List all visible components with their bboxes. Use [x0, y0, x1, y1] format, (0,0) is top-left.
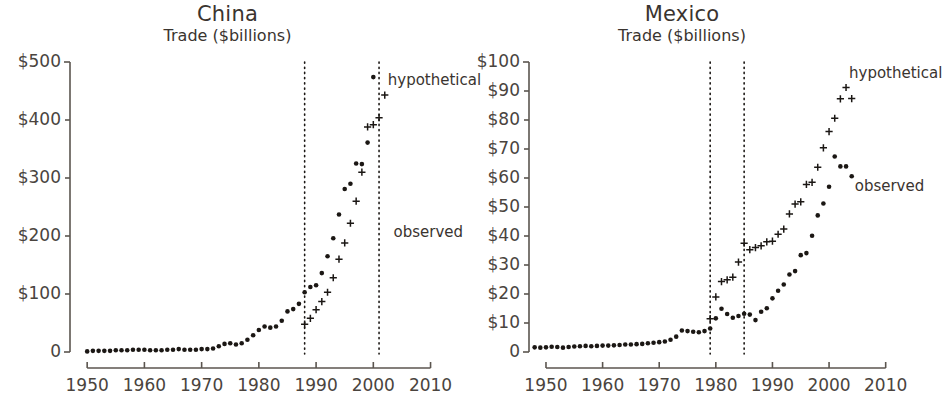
mexico-y-tick-label: $100	[477, 53, 520, 70]
china-svg	[8, 56, 448, 402]
china-marker-dot	[125, 348, 130, 353]
china-marker-plus	[375, 114, 382, 121]
mexico-x-tick-label: 2000	[799, 377, 859, 394]
china-marker-dot	[365, 140, 370, 145]
china-y-tick-label: 0	[50, 343, 61, 360]
mexico-x-tick-label: 1950	[516, 377, 576, 394]
mexico-plot-area: 0$10$20$30$40$50$60$70$80$90$10019501960…	[461, 56, 903, 402]
china-marker-dot	[182, 347, 187, 352]
mexico-annotation-observed: observed	[855, 179, 925, 194]
china-axes	[64, 62, 431, 368]
china-marker-dot	[291, 307, 296, 312]
china-y-tick-label: $500	[18, 53, 61, 70]
china-marker-dot	[279, 318, 284, 323]
china-annotation-observed: observed	[393, 225, 463, 240]
mexico-axes	[523, 62, 886, 368]
mexico-marker-dot	[612, 343, 617, 348]
china-y-tick-label: $100	[18, 285, 61, 302]
china-marker-plus	[324, 289, 331, 296]
mexico-y-tick-label: $20	[488, 285, 520, 302]
china-marker-plus	[353, 198, 360, 205]
mexico-marker-dot	[748, 312, 753, 317]
mexico-marker-dot	[753, 318, 758, 323]
china-marker-dot	[102, 349, 107, 354]
china-marker-dot	[297, 302, 302, 307]
mexico-title-block: Mexico Trade ($billions)	[455, 2, 909, 46]
mexico-marker-dot	[566, 345, 571, 350]
china-marker-dot	[262, 324, 267, 329]
mexico-marker-plus	[837, 95, 844, 102]
china-marker-dot	[113, 348, 118, 353]
mexico-marker-dot	[561, 345, 566, 350]
china-marker-dot	[131, 347, 136, 352]
mexico-y-tick-label: $40	[488, 227, 520, 244]
china-y-tick-label: $400	[18, 111, 61, 128]
mexico-y-tick-label: 0	[509, 343, 520, 360]
mexico-marker-dot	[759, 309, 764, 314]
mexico-marker-dot	[736, 314, 741, 319]
mexico-marker-dot	[538, 345, 543, 350]
mexico-marker-dot	[600, 343, 605, 348]
mexico-marker-plus	[758, 242, 765, 249]
mexico-marker-dot	[798, 253, 803, 258]
mexico-marker-dot	[668, 338, 673, 343]
china-marker-dot	[245, 338, 250, 343]
mexico-y-tick-label: $60	[488, 169, 520, 186]
china-marker-dot	[136, 347, 141, 352]
mexico-y-tick-label: $90	[488, 82, 520, 99]
mexico-marker-plus	[848, 95, 855, 102]
china-marker-dot	[96, 349, 101, 354]
china-x-tick-label: 1990	[286, 377, 346, 394]
mexico-marker-dot	[640, 342, 645, 347]
china-marker-dot	[165, 347, 170, 352]
mexico-marker-dot	[583, 344, 588, 349]
mexico-marker-dot	[555, 345, 560, 350]
mexico-marker-plus	[769, 238, 776, 245]
mexico-marker-plus	[820, 144, 827, 151]
china-plot-area: 0$100$200$300$400$5001950196019701980199…	[8, 56, 448, 402]
mexico-marker-dot	[657, 340, 662, 345]
china-marker-dot	[320, 271, 325, 276]
mexico-marker-plus	[831, 115, 838, 122]
mexico-marker-dot	[663, 339, 668, 344]
mexico-marker-dot	[838, 164, 843, 169]
china-marker-dot	[91, 349, 96, 354]
mexico-marker-plus	[707, 315, 714, 322]
mexico-marker-dot	[764, 306, 769, 311]
mexico-annotation-hypothetical: hypothetical	[849, 66, 942, 81]
china-marker-dot	[211, 346, 216, 351]
china-marker-dot	[257, 328, 262, 333]
china-marker-dot	[285, 309, 290, 314]
china-marker-dot	[119, 348, 124, 353]
mexico-marker-dot	[646, 341, 651, 346]
mexico-marker-plus	[718, 278, 725, 285]
mexico-marker-dot	[821, 201, 826, 206]
mexico-marker-plus	[786, 210, 793, 217]
mexico-marker-plus	[735, 259, 742, 266]
mexico-y-tick-label: $30	[488, 256, 520, 273]
mexico-x-tick-label: 1960	[573, 377, 633, 394]
china-marker-dot	[228, 341, 233, 346]
mexico-marker-dot	[810, 233, 815, 238]
mexico-marker-dot	[742, 311, 747, 316]
mexico-marker-dot	[719, 306, 724, 311]
mexico-marker-dot	[606, 343, 611, 348]
mexico-marker-dot	[595, 344, 600, 349]
mexico-x-tick-label: 1970	[629, 377, 689, 394]
mexico-marker-plus	[780, 225, 787, 232]
mexico-marker-dot	[674, 334, 679, 339]
china-marker-dot	[348, 182, 353, 187]
mexico-marker-dot	[827, 184, 832, 189]
mexico-marker-dot	[714, 316, 719, 321]
mexico-marker-plus	[814, 164, 821, 171]
china-marker-dot	[85, 349, 90, 354]
chart-panel-mexico: Mexico Trade ($billions) 0$10$20$30$40$5…	[455, 0, 909, 402]
china-series-hypothetical	[301, 91, 388, 327]
china-marker-dot	[234, 342, 239, 347]
chart-panel-china: China Trade ($billions) 0$100$200$300$40…	[0, 0, 455, 402]
mexico-marker-dot	[832, 154, 837, 159]
mexico-marker-dot	[731, 315, 736, 320]
china-x-tick-label: 1960	[114, 377, 174, 394]
mexico-marker-dot	[680, 328, 685, 333]
